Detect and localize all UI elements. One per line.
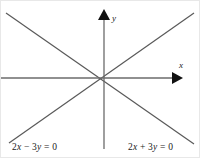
coordinate-plane-figure: x y 2x − 3y = 0 2x + 3y = 0 bbox=[0, 0, 200, 158]
eq-left-var2: y bbox=[37, 142, 41, 152]
y-axis-arrow-icon bbox=[98, 9, 110, 20]
x-axis-label: x bbox=[179, 61, 183, 70]
x-axis-arrow-icon bbox=[172, 72, 183, 84]
eq-right-operator: + bbox=[140, 142, 146, 152]
eq-right-var1: x bbox=[133, 142, 137, 152]
eq-left-var1: x bbox=[17, 142, 21, 152]
eq-left-equals: = bbox=[44, 142, 50, 152]
eq-right-equals: = bbox=[160, 142, 166, 152]
eq-left-operator: − bbox=[24, 142, 30, 152]
equation-label-left: 2x − 3y = 0 bbox=[12, 143, 57, 153]
eq-right-rhs: 0 bbox=[168, 142, 173, 152]
eq-left-rhs: 0 bbox=[52, 142, 57, 152]
eq-right-var2: y bbox=[153, 142, 157, 152]
graph-canvas bbox=[1, 1, 200, 158]
y-axis-label: y bbox=[112, 14, 116, 23]
equation-label-right: 2x + 3y = 0 bbox=[128, 143, 173, 153]
